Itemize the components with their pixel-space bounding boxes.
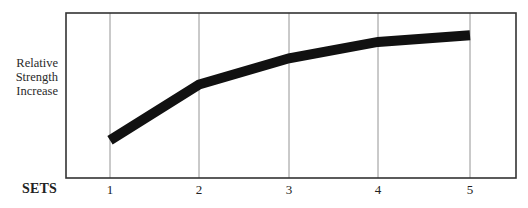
- x-tick-label-1: 1: [100, 182, 120, 198]
- x-tick-label-2: 2: [189, 182, 209, 198]
- x-tick-label-4: 4: [368, 182, 388, 198]
- x-tick-label-5: 5: [460, 182, 480, 198]
- data-line: [110, 35, 470, 140]
- chart-plot-area: [0, 0, 528, 208]
- x-axis-label: SETS: [22, 181, 57, 197]
- x-tick-label-3: 3: [279, 182, 299, 198]
